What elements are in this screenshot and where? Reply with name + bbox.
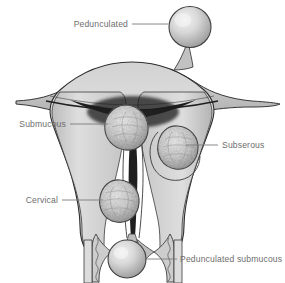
uterine-body (16, 62, 280, 251)
label-text-cervical: Cervical (26, 195, 58, 205)
pedunculated-fibroid (169, 7, 211, 71)
pedunculated-fibroid-body (169, 7, 211, 48)
label-text-subserous: Subserous (222, 140, 264, 150)
pedunculated-stalk (174, 46, 193, 70)
vaginal-wall-left (84, 240, 92, 283)
figure-canvas: Pedunculated Submucous Subserous Cervica… (0, 0, 285, 283)
label-text-submucous: Submucous (19, 119, 66, 129)
pedunculated-highlight (175, 13, 192, 27)
submucous-fibroid (105, 105, 148, 150)
pedunculated-submucous-fibroid (108, 234, 146, 278)
label-text-pedunculated-submucous: Pedunculated submucous (180, 254, 282, 264)
pedunculated-submucous-highlight (114, 247, 129, 259)
pedunculated-submucous-body (108, 240, 146, 278)
label-pedunculated: Pedunculated (74, 19, 168, 29)
uterine-fibroid-diagram: Pedunculated Submucous Subserous Cervica… (0, 0, 285, 283)
label-text-pedunculated: Pedunculated (74, 19, 128, 29)
cervical-fibroid (100, 180, 139, 222)
subserous-fibroid-body (158, 126, 198, 169)
